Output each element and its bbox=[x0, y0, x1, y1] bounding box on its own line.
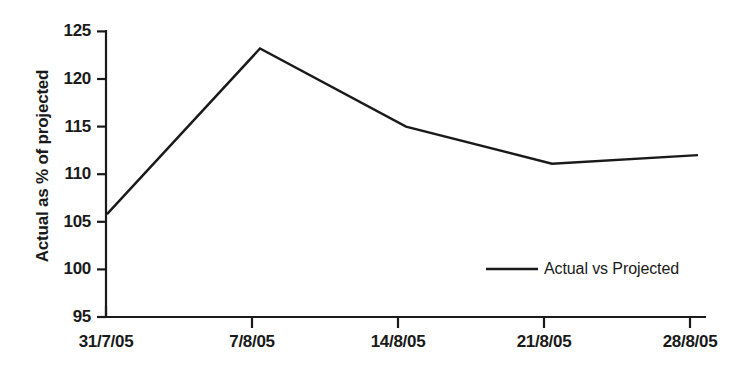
x-axis-tick-label: 21/8/05 bbox=[489, 331, 599, 353]
x-axis-tick-label: 7/8/05 bbox=[197, 331, 307, 353]
chart-container: Actual as % of projected 951001051101151… bbox=[0, 0, 742, 373]
legend-entry-label: Actual vs Projected bbox=[544, 258, 679, 280]
y-axis-tick-label: 100 bbox=[45, 259, 91, 279]
chart-plot-area bbox=[0, 0, 742, 373]
y-axis-tick-label: 95 bbox=[45, 307, 91, 327]
x-axis-tick-label: 14/8/05 bbox=[343, 331, 453, 353]
x-axis-tick-label: 31/7/05 bbox=[51, 331, 161, 353]
y-axis-tick-label: 125 bbox=[45, 21, 91, 41]
y-axis-tick-label: 115 bbox=[45, 117, 91, 137]
series-line-actual-vs-projected bbox=[107, 49, 698, 215]
y-axis-tick-label: 120 bbox=[45, 69, 91, 89]
y-axis-ticks bbox=[97, 31, 106, 317]
y-axis-tick-label: 105 bbox=[45, 212, 91, 232]
y-axis-tick-label: 110 bbox=[45, 164, 91, 184]
x-axis-tick-label: 28/8/05 bbox=[635, 331, 742, 353]
